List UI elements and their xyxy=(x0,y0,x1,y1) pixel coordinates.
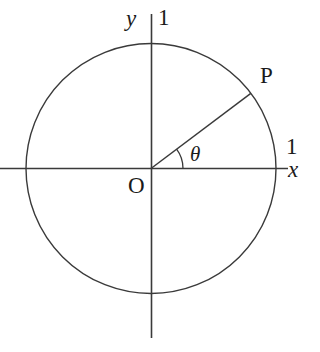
angle-arc xyxy=(177,149,183,168)
point-p-label: P xyxy=(260,64,273,87)
radius-op-line xyxy=(151,93,251,168)
origin-label: O xyxy=(128,174,145,197)
y-axis-label: y xyxy=(126,7,136,30)
angle-theta-label: θ xyxy=(190,144,200,165)
unit-circle-figure: y 1 P 1 x O θ xyxy=(0,0,320,352)
y-unit-value-label: 1 xyxy=(158,6,170,29)
x-unit-value-label: 1 xyxy=(286,135,298,158)
unit-circle-diagram xyxy=(0,0,320,352)
x-axis-label: x xyxy=(288,158,298,181)
